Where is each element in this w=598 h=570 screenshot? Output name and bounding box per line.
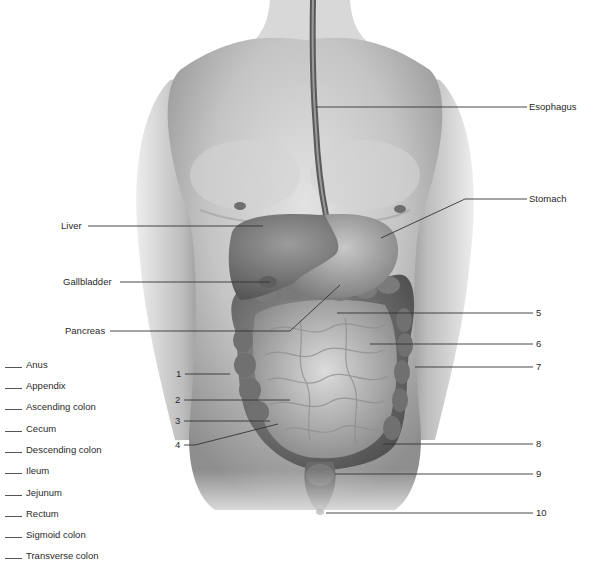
answer-blank[interactable]: [5, 380, 22, 389]
number-label-6: 6: [536, 338, 541, 350]
number-label-2: 2: [175, 394, 180, 406]
answer-blank[interactable]: [5, 444, 22, 453]
answer-key-item: Appendix: [5, 380, 66, 392]
nipple-left: [234, 202, 246, 210]
answer-key-item: Sigmoid colon: [5, 529, 86, 541]
nipple-right: [394, 205, 406, 213]
answer-blank[interactable]: [5, 550, 22, 559]
label-liver: Liver: [61, 220, 82, 232]
label-pancreas: Pancreas: [65, 325, 105, 337]
answer-key-item: Jejunum: [5, 487, 62, 499]
answer-key-item: Ascending colon: [5, 401, 96, 413]
number-label-1: 1: [176, 368, 181, 380]
label-gallbladder: Gallbladder: [63, 276, 112, 288]
number-label-5: 5: [536, 307, 541, 319]
answer-blank[interactable]: [5, 423, 22, 432]
label-esophagus: Esophagus: [529, 101, 577, 113]
number-label-10: 10: [536, 507, 547, 519]
number-label-8: 8: [536, 438, 541, 450]
number-label-7: 7: [536, 361, 541, 373]
answer-key-item: Rectum: [5, 508, 59, 520]
answer-blank[interactable]: [5, 401, 22, 410]
answer-blank[interactable]: [5, 508, 22, 517]
label-stomach: Stomach: [529, 193, 567, 205]
answer-key-item: Ileum: [5, 465, 49, 477]
answer-key-item: Descending colon: [5, 444, 102, 456]
answer-blank[interactable]: [5, 465, 22, 474]
answer-key-item: Cecum: [5, 423, 56, 435]
number-label-4: 4: [175, 439, 180, 451]
answer-blank[interactable]: [5, 529, 22, 538]
answer-key-item: Anus: [5, 359, 48, 371]
number-label-9: 9: [536, 468, 541, 480]
number-label-3: 3: [175, 415, 180, 427]
answer-key-item: Transverse colon: [5, 550, 99, 562]
answer-blank[interactable]: [5, 487, 22, 496]
answer-blank[interactable]: [5, 359, 22, 368]
